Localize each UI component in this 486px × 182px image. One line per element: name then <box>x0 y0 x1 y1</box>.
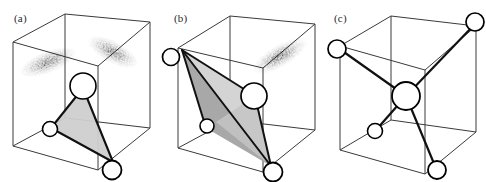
atom-bottom-front <box>264 163 283 182</box>
atom-central <box>241 83 267 109</box>
atom-central <box>70 73 96 99</box>
panel-a: (a) <box>0 0 162 182</box>
atom-bottom <box>428 161 446 179</box>
atom-left <box>328 40 346 58</box>
panel-c-graphic <box>318 0 486 182</box>
panel-b: (b) <box>158 0 323 182</box>
panel-a-graphic <box>0 0 162 182</box>
electron-cloud-lobe <box>248 31 313 81</box>
electron-cloud-group-b <box>248 31 313 81</box>
atom-top-right <box>466 13 484 31</box>
atom-bottom-front <box>103 161 122 180</box>
panel-b-graphic <box>158 0 323 182</box>
atom-left-corner <box>163 49 180 66</box>
electron-cloud-lobe <box>16 41 80 84</box>
figure-container: (a) <box>0 0 486 182</box>
panel-label-c: (c) <box>334 12 347 24</box>
panel-label-b: (b) <box>174 12 187 24</box>
atom-central <box>392 82 420 110</box>
panel-label-a: (a) <box>14 12 27 24</box>
atom-left <box>43 122 58 137</box>
panel-c: (c) <box>318 0 486 182</box>
atom-lower-left <box>368 124 383 139</box>
atom-lower-left <box>200 119 214 133</box>
